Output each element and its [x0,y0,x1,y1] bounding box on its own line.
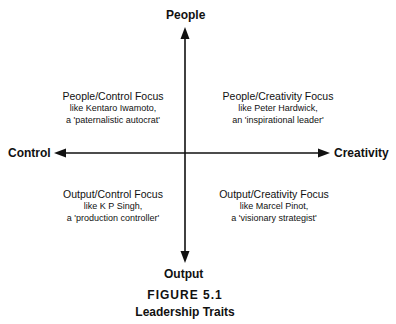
quadrant-description: a 'visionary strategist' [199,212,349,224]
quadrant-output-creativity: Output/Creativity Focus like Marcel Pino… [199,188,349,224]
arrow-right-icon [318,149,330,158]
quadrant-description: an 'inspirational leader' [203,114,353,126]
arrow-up-icon [181,27,190,39]
axis-label-control: Control [8,146,51,160]
quadrant-people-control: People/Control Focus like Kentaro Iwamot… [38,90,188,126]
axis-label-people: People [166,8,205,22]
quadrant-description: a 'production controller' [38,212,188,224]
figure-title: Leadership Traits [0,305,370,319]
axis-label-creativity: Creativity [334,146,389,160]
quadrant-description: a 'paternalistic autocrat' [38,114,188,126]
quadrant-example: like K P Singh, [38,200,188,212]
figure-number: FIGURE 5.1 [0,288,370,302]
quadrant-title: People/Control Focus [38,90,188,102]
quadrant-title: People/Creativity Focus [203,90,353,102]
quadrant-example: like Kentaro Iwamoto, [38,102,188,114]
arrow-left-icon [54,149,66,158]
quadrant-output-control: Output/Control Focus like K P Singh, a '… [38,188,188,224]
quadrant-people-creativity: People/Creativity Focus like Peter Hardw… [203,90,353,126]
arrow-down-icon [181,251,190,263]
quadrant-title: Output/Control Focus [38,188,188,200]
quadrant-title: Output/Creativity Focus [199,188,349,200]
quadrant-example: like Marcel Pinot, [199,200,349,212]
quadrant-example: like Peter Hardwick, [203,102,353,114]
axis-label-output: Output [164,267,203,281]
